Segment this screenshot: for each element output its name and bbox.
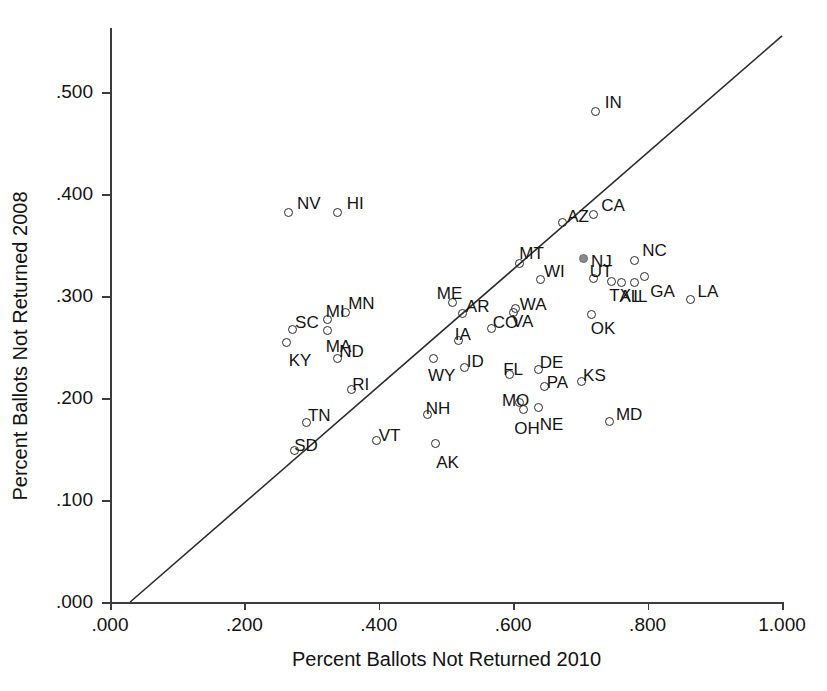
data-point-label-ri: RI [352, 376, 369, 393]
data-point-md[interactable] [605, 417, 614, 426]
data-point-label-mn: MN [348, 295, 374, 312]
data-point-in[interactable] [591, 107, 600, 116]
data-point-label-ne: NE [540, 416, 564, 433]
x-tick-label: .200 [226, 614, 263, 636]
data-point-label-in: IN [605, 94, 622, 111]
identity-reference-line [0, 0, 827, 691]
y-tick-mark [102, 92, 110, 94]
y-tick-mark [102, 500, 110, 502]
data-point-label-wa: WA [520, 296, 547, 313]
y-tick-label: .000 [56, 591, 93, 613]
data-point-la[interactable] [686, 295, 695, 304]
data-point-label-id: ID [467, 353, 484, 370]
x-axis-line [110, 602, 783, 604]
x-tick-label: .800 [629, 614, 666, 636]
data-point-label-ok: OK [591, 320, 616, 337]
x-tick-mark [782, 602, 784, 610]
y-axis-title: Percent Ballots Not Returned 2008 [9, 176, 32, 516]
data-point-label-de: DE [540, 354, 564, 371]
data-point-ok[interactable] [587, 310, 596, 319]
x-tick-label: 1.000 [758, 614, 806, 636]
data-point-label-hi: HI [347, 195, 364, 212]
x-tick-label: .000 [92, 614, 129, 636]
data-point-label-me: ME [437, 285, 463, 302]
y-tick-label: .300 [56, 285, 93, 307]
data-point-label-nd: ND [339, 343, 364, 360]
y-tick-label: .400 [56, 183, 93, 205]
data-point-label-ak: AK [436, 454, 459, 471]
data-point-label-md: MD [616, 406, 642, 423]
x-tick-mark [513, 602, 515, 610]
data-point-wy[interactable] [429, 354, 438, 363]
data-point-il[interactable] [630, 278, 639, 287]
x-tick-mark [379, 602, 381, 610]
y-tick-label: .100 [56, 489, 93, 511]
data-point-label-mi: MI [326, 303, 345, 320]
data-point-nv[interactable] [284, 208, 293, 217]
y-tick-mark [102, 398, 110, 400]
data-point-label-mt: MT [519, 245, 544, 262]
data-point-hi[interactable] [333, 208, 342, 217]
x-tick-label: .400 [360, 614, 397, 636]
x-axis-title: Percent Ballots Not Returned 2010 [110, 648, 783, 671]
data-point-label-ga: GA [650, 283, 675, 300]
data-point-label-pa: PA [547, 374, 568, 391]
scatter-plot-figure: .000.100.200.300.400.500 .000.200.400.60… [0, 0, 827, 691]
data-point-label-ks: KS [583, 367, 606, 384]
y-tick-mark [102, 194, 110, 196]
data-point-label-nc: NC [642, 242, 667, 259]
data-point-oh[interactable] [519, 405, 528, 414]
data-point-label-fl: FL [503, 361, 523, 378]
data-point-ak[interactable] [431, 439, 440, 448]
data-point-ga[interactable] [640, 272, 649, 281]
data-point-ma[interactable] [323, 326, 332, 335]
y-tick-mark [102, 296, 110, 298]
data-point-label-co: CO [493, 314, 519, 331]
data-point-label-ky: KY [289, 352, 312, 369]
data-point-label-oh: OH [514, 420, 540, 437]
x-tick-label: .600 [495, 614, 532, 636]
data-point-label-ca: CA [601, 197, 625, 214]
data-point-nc[interactable] [630, 256, 639, 265]
data-point-label-nv: NV [297, 195, 321, 212]
data-point-az[interactable] [558, 218, 567, 227]
y-axis-line [110, 28, 112, 603]
y-tick-label: .200 [56, 387, 93, 409]
data-point-label-sc: SC [295, 314, 319, 331]
x-tick-mark [244, 602, 246, 610]
data-point-label-ia: IA [455, 326, 471, 343]
data-point-label-wi: WI [544, 263, 565, 280]
x-tick-mark [110, 602, 112, 610]
y-tick-mark [102, 602, 110, 604]
data-point-label-sd: SD [294, 437, 318, 454]
data-point-label-nh: NH [426, 400, 451, 417]
data-point-label-il: IL [633, 288, 647, 305]
data-point-label-ar: AR [466, 298, 490, 315]
data-point-ca[interactable] [589, 210, 598, 219]
data-point-label-az: AZ [567, 208, 589, 225]
data-point-label-vt: VT [379, 427, 401, 444]
y-tick-label: .500 [56, 81, 93, 103]
data-point-label-la: LA [698, 283, 719, 300]
data-point-ne[interactable] [534, 403, 543, 412]
data-point-nj[interactable] [579, 254, 588, 263]
data-point-tx[interactable] [607, 277, 616, 286]
data-point-ky[interactable] [282, 338, 291, 347]
data-point-label-wy: WY [428, 367, 455, 384]
x-tick-mark [648, 602, 650, 610]
data-point-label-tn: TN [308, 407, 331, 424]
